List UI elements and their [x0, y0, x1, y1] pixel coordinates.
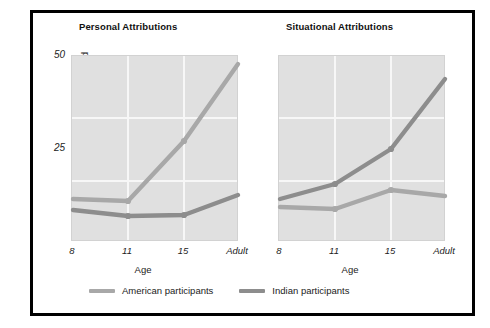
legend-swatch-american-icon — [89, 289, 115, 293]
x-axis-label-right: Age — [330, 264, 370, 275]
x-tick-11-right: 11 — [323, 245, 345, 256]
data-point — [388, 187, 394, 193]
y-tick-50-left: 50 — [41, 49, 65, 60]
series-lines-situational — [279, 56, 446, 242]
data-point — [181, 212, 187, 218]
legend-swatch-indian-icon — [239, 289, 265, 293]
x-tick-adult-right: Adult — [425, 245, 463, 256]
legend-entry-american: American participants — [89, 285, 213, 296]
x-tick-15-right: 15 — [379, 245, 401, 256]
x-tick-adult-left: Adult — [218, 245, 256, 256]
plot-area-situational — [278, 55, 445, 241]
figure-frame: Personal Attributions Proportion of pers… — [30, 10, 475, 316]
chart-legend: American participants Indian participant… — [89, 285, 349, 296]
data-point — [332, 206, 338, 212]
chart-title-situational: Situational Attributions — [286, 21, 393, 32]
data-point — [125, 213, 131, 219]
x-tick-11-left: 11 — [116, 245, 138, 256]
legend-label-indian: Indian participants — [272, 285, 349, 296]
y-tick-25-left: 25 — [41, 142, 65, 153]
data-point — [332, 181, 338, 187]
data-point — [388, 146, 394, 152]
x-tick-8-right: 8 — [268, 245, 290, 256]
series-lines-personal — [72, 56, 239, 242]
data-point — [125, 198, 131, 204]
data-point — [181, 138, 187, 144]
x-tick-15-left: 15 — [172, 245, 194, 256]
series-line-indian-situational — [280, 79, 445, 199]
legend-label-american: American participants — [122, 285, 213, 296]
series-line-american-personal — [73, 64, 238, 201]
x-tick-8-left: 8 — [61, 245, 83, 256]
x-axis-label-left: Age — [123, 264, 163, 275]
legend-entry-indian: Indian participants — [239, 285, 349, 296]
plot-area-personal — [71, 55, 238, 241]
chart-title-personal: Personal Attributions — [79, 21, 177, 32]
